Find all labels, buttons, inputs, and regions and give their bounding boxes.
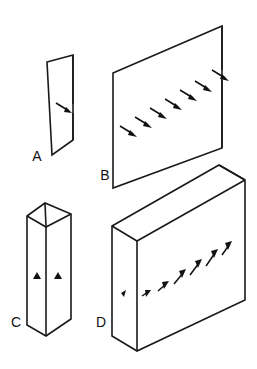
panel-d-arrow-4 xyxy=(174,269,186,284)
panel-c-top-rim xyxy=(27,214,71,227)
panel-label-b: B xyxy=(100,167,109,183)
panel-d-arrow-3 xyxy=(158,281,169,291)
panel-b-group: B xyxy=(100,26,229,188)
diagram-root: A xyxy=(0,0,257,369)
panel-d-arrow-2-head xyxy=(145,290,151,297)
panel-b-plate-outline xyxy=(113,26,222,188)
panel-d-top-rim xyxy=(112,180,245,241)
panel-label-c: C xyxy=(11,314,21,330)
panel-c-column-outline xyxy=(27,203,71,336)
panel-label-d: D xyxy=(96,314,106,330)
panel-c-arrow-left-head xyxy=(33,272,41,279)
panel-b-arrow-4 xyxy=(165,99,182,110)
panel-d-arrow-5 xyxy=(190,259,202,275)
panel-d-arrow-7 xyxy=(222,241,232,255)
panel-d-arrow-2 xyxy=(142,290,151,297)
panel-d-arrow-1 xyxy=(121,290,126,297)
panel-b-arrow-7 xyxy=(212,70,229,81)
panel-label-a: A xyxy=(32,148,42,164)
panel-b-arrow-2 xyxy=(135,117,152,128)
panel-d-slab-outline xyxy=(112,165,245,351)
panel-d-arrow-3-head xyxy=(162,281,169,289)
panel-c-inner-wall-edge xyxy=(45,203,46,227)
panel-c-group: C xyxy=(11,203,71,336)
panel-b-arrow-6 xyxy=(195,81,212,92)
panel-b-arrow-3 xyxy=(150,108,167,119)
panel-b-arrow-1 xyxy=(120,126,137,137)
panel-d-arrow-6 xyxy=(206,249,218,266)
panel-a-group: A xyxy=(32,55,73,164)
panel-b-arrow-5 xyxy=(180,90,197,101)
panel-d-inner-wall-edge xyxy=(219,165,245,180)
panel-d-arrow-1-head xyxy=(121,290,126,297)
panel-d-group: D xyxy=(96,165,245,351)
panel-a-arrow xyxy=(56,103,72,113)
figure-canvas: A xyxy=(0,0,257,369)
panel-b-arrows xyxy=(120,70,229,137)
panel-c-arrow-right-head xyxy=(54,272,62,279)
panel-c-arrows xyxy=(33,272,62,279)
